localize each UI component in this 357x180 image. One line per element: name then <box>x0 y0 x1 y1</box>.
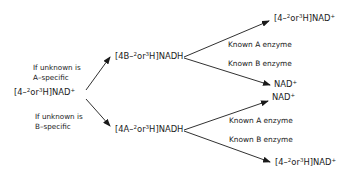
intermediate-4a-nadh: [4A–2or3H]NADH <box>115 125 183 133</box>
condition-b-specific: If unknown is B–specific <box>35 112 83 132</box>
bottom-product-labeled-nad: [4–2or3H]NAD+ <box>275 158 336 166</box>
arrow-start-to-4a <box>86 99 110 126</box>
top-enzyme-b-label: Known B enzyme <box>228 60 292 67</box>
top-product-nad: NAD+ <box>274 80 297 88</box>
start-compound: [4–2or3H]NAD+ <box>14 88 75 96</box>
top-enzyme-a-label: Known A enzyme <box>228 41 292 48</box>
condition-a-specific: If unknown is A–specific <box>33 63 81 83</box>
top-product-labeled-nad: [4–2or3H]NAD+ <box>274 14 335 22</box>
arrow-4b-to-labeled-nad <box>184 21 269 57</box>
intermediate-4b-nadh: [4B–2or3H]NADH <box>115 52 183 60</box>
arrow-start-to-4b <box>86 57 110 90</box>
bottom-product-nad: NAD+ <box>272 93 295 101</box>
bottom-enzyme-b-label: Known B enzyme <box>229 136 293 143</box>
bottom-enzyme-a-label: Known A enzyme <box>229 117 293 124</box>
